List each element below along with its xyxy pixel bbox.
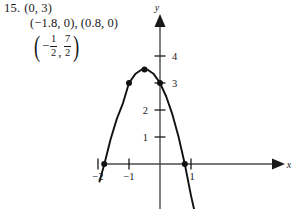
vertex-x-numerator: 1 — [50, 34, 57, 45]
marked-point-x-intercept-left — [101, 161, 107, 167]
vertex-y-fraction: 7 2 — [64, 34, 71, 58]
marked-point-on-curve — [126, 80, 132, 86]
x-tick-label-1: 1 — [189, 171, 194, 182]
vertex-x-fraction: 1 2 — [50, 34, 57, 58]
y-intercept-text: (0, 3) — [24, 2, 52, 15]
y-axis-label: y — [154, 2, 160, 13]
worked-answer-figure: 15. (0, 3) (−1.8, 0), (0.8, 0) ( − 1 2 ,… — [0, 0, 296, 209]
x-tick-label-minus1: −1 — [123, 171, 134, 182]
y-tick-label-4: 4 — [172, 51, 178, 62]
y-axis-arrowhead — [155, 14, 166, 27]
minus-sign: − — [42, 40, 49, 53]
parabola-graph: y x −2 −1 1 1 2 3 4 — [86, 0, 296, 209]
item-number: 15. — [4, 2, 24, 15]
x-axis-label: x — [286, 159, 292, 170]
marked-point-x-intercept-right — [182, 161, 188, 167]
x-axis-arrowhead — [272, 159, 285, 170]
vertex-y-numerator: 7 — [64, 34, 71, 45]
y-tick-label-1: 1 — [143, 132, 148, 143]
vertex-y-denominator: 2 — [64, 48, 71, 59]
vertex-ordered-pair: ( − 1 2 , 7 2 ) — [32, 33, 81, 59]
marked-point-vertex — [142, 67, 148, 73]
marked-point-y-intercept — [157, 80, 163, 86]
vertex-x-denominator: 2 — [50, 48, 57, 59]
pair-comma: , — [58, 46, 61, 59]
y-tick-label-2: 2 — [143, 105, 148, 116]
right-paren: ) — [73, 33, 79, 59]
left-paren: ( — [34, 33, 40, 59]
y-tick-label-3: 3 — [172, 78, 177, 89]
